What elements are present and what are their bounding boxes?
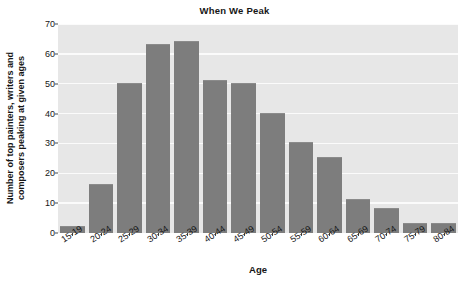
bar-slot (58, 24, 87, 233)
bar-slot (429, 24, 458, 233)
x-axis-label: Age (58, 264, 458, 275)
bar-slot (344, 24, 373, 233)
bar-slot (144, 24, 173, 233)
y-axis-tick-label: 50 (33, 79, 55, 89)
bar-slot (258, 24, 287, 233)
y-axis-tick-label: 40 (33, 109, 55, 119)
y-axis-tick-label: 60 (33, 49, 55, 59)
bar[interactable] (231, 83, 256, 233)
bar[interactable] (174, 41, 199, 233)
y-axis-tick-label: 20 (33, 168, 55, 178)
bar-slot (115, 24, 144, 233)
chart-title: When We Peak (0, 5, 469, 16)
bar[interactable] (146, 44, 171, 233)
y-axis-label-text: Number of top painters, writers and comp… (5, 52, 27, 204)
bar-slot (401, 24, 430, 233)
y-axis-label-line-1: Number of top painters, writers and (5, 52, 15, 204)
bar-series (58, 24, 458, 233)
y-axis-label: Number of top painters, writers and comp… (0, 22, 32, 234)
bar[interactable] (203, 80, 228, 233)
y-axis-tick-label: 0 (33, 228, 55, 238)
chart-figure: When We Peak Number of top painters, wri… (0, 0, 469, 286)
y-axis-tick-labels: 010203040506070 (30, 24, 55, 233)
bar-slot (172, 24, 201, 233)
bar-slot (229, 24, 258, 233)
bar-slot (201, 24, 230, 233)
y-axis-tick-label: 70 (33, 19, 55, 29)
y-axis-label-line-2: composers peaking at given ages (16, 56, 26, 200)
y-axis-tick-label: 10 (33, 198, 55, 208)
bar-slot (372, 24, 401, 233)
y-axis-tick-label: 30 (33, 138, 55, 148)
bar-slot (87, 24, 116, 233)
bar[interactable] (260, 113, 285, 233)
bar[interactable] (289, 142, 314, 233)
bar[interactable] (117, 83, 142, 233)
bar[interactable] (317, 157, 342, 233)
plot-area (58, 24, 458, 233)
bar-slot (287, 24, 316, 233)
bar-slot (315, 24, 344, 233)
